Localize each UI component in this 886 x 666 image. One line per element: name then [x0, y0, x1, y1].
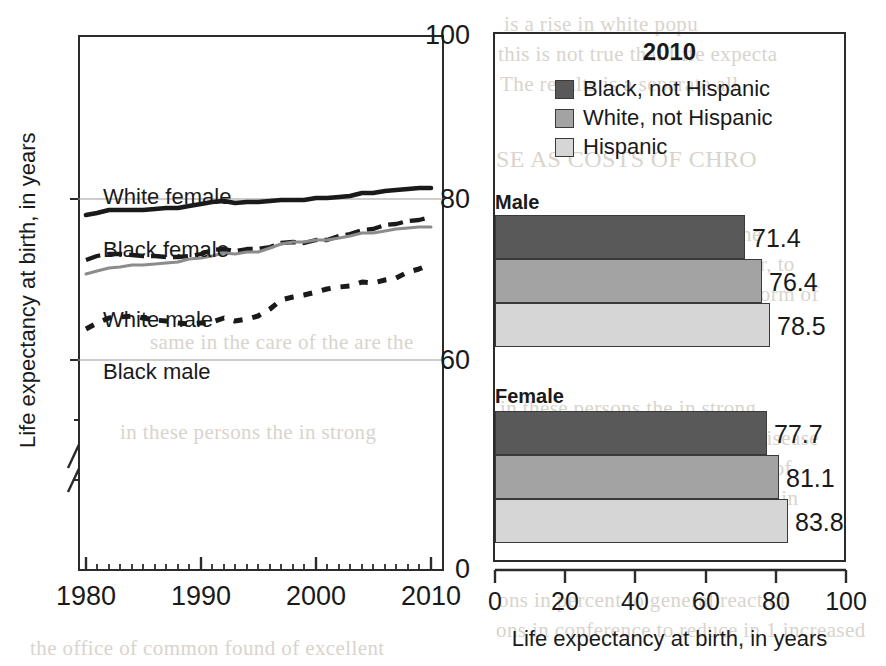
bar-chart-panel: 2010 Black, not Hispanic White, not Hisp…: [470, 0, 886, 666]
figure-page: is a rise in white popu this is not true…: [0, 0, 886, 666]
x-tick-1990: 1990: [156, 583, 246, 610]
bar-x-tick-20: 20: [525, 589, 605, 614]
bar-x-tick-80: 80: [736, 589, 816, 614]
bar-x-tick-100: 100: [806, 589, 886, 614]
x-axis-ticks: [86, 557, 431, 571]
x-tick-2000: 2000: [271, 583, 361, 610]
series-label-black-male: Black male: [103, 361, 211, 383]
bar-x-tick-0: 0: [455, 589, 535, 614]
bar-x-tick-60: 60: [666, 589, 746, 614]
y-tick-0: 0: [404, 556, 470, 583]
y-tick-80: 80: [404, 186, 470, 213]
bar-chart-axis: [470, 0, 886, 666]
series-label-black-female: Black female: [103, 239, 229, 261]
y-tick-100: 100: [404, 22, 470, 49]
line-chart-panel: 100 80 60 0 Life expectancy at birth, in…: [0, 0, 470, 666]
y-tick-60: 60: [404, 347, 470, 374]
series-label-white-female: White female: [103, 186, 231, 208]
y-axis-title: Life expectancy at birth, in years: [15, 148, 41, 448]
bar-chart-axis-title: Life expectancy at birth, in years: [493, 628, 846, 650]
axis-break-mark: [68, 438, 78, 468]
bar-x-tick-40: 40: [595, 589, 675, 614]
line-chart-canvas: [78, 35, 444, 571]
x-tick-1980: 1980: [41, 583, 131, 610]
series-label-white-male: White male: [103, 309, 213, 331]
